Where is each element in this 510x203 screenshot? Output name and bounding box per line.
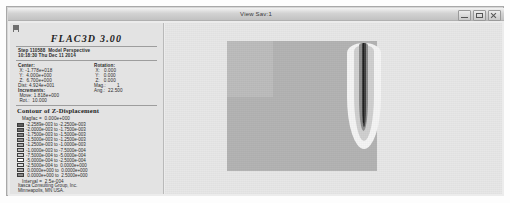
contour-color-swatch bbox=[17, 168, 24, 172]
contour-color-swatch bbox=[17, 143, 24, 147]
time-line: 10:18:30 Thu Dec 11 2014 bbox=[18, 53, 76, 58]
displacement-contour-plume bbox=[347, 43, 381, 149]
contour-axis-line bbox=[363, 43, 364, 123]
contour-color-swatch bbox=[17, 163, 24, 167]
application-root: View Sav:1 FLAC3D 3.00 Step 110588 Model… bbox=[0, 0, 510, 203]
vendor-line-2: Minneapolis, MN USA. bbox=[18, 188, 64, 193]
contour-legend-rows: -2.2589e-003 to -2.2500e-003-2.0000e-003… bbox=[17, 122, 88, 178]
window-title-bar[interactable]: View Sav:1 bbox=[8, 8, 504, 21]
contour-color-swatch bbox=[17, 138, 24, 142]
contour-legend-row: 0.0000e+000 to 2.5000e+000 bbox=[17, 173, 88, 178]
increments-rot: Rot.: 10.000 bbox=[18, 98, 47, 103]
maximize-button[interactable] bbox=[473, 10, 486, 21]
product-title: FLAC3D 3.00 bbox=[10, 33, 163, 44]
contour-range-label: 0.0000e+000 to 2.5000e+000 bbox=[26, 173, 88, 178]
model-viewport[interactable] bbox=[165, 23, 502, 194]
flac3d-window: View Sav:1 FLAC3D 3.00 Step 110588 Model… bbox=[6, 6, 504, 196]
contour-color-swatch bbox=[17, 128, 24, 132]
close-icon[interactable] bbox=[488, 10, 501, 21]
minimize-button[interactable] bbox=[458, 10, 471, 21]
contour-title: Contour of Z-Displacement bbox=[17, 107, 99, 114]
rotation-ang: Ang.: 22.500 bbox=[94, 88, 123, 93]
legend-panel: FLAC3D 3.00 Step 110588 Model Perspectiv… bbox=[10, 23, 164, 194]
contour-color-swatch bbox=[17, 173, 24, 177]
contour-color-swatch bbox=[17, 133, 24, 137]
window-controls bbox=[458, 10, 501, 21]
plot-area: FLAC3D 3.00 Step 110588 Model Perspectiv… bbox=[8, 21, 504, 196]
divider bbox=[16, 60, 157, 61]
contour-color-swatch bbox=[17, 123, 24, 127]
contour-color-swatch bbox=[17, 158, 24, 162]
contour-color-swatch bbox=[17, 153, 24, 157]
divider bbox=[16, 46, 157, 47]
divider bbox=[16, 105, 157, 106]
window-title: View Sav:1 bbox=[8, 10, 504, 19]
contour-magfac: Magfac = 0.000e+000 bbox=[22, 116, 70, 121]
model-block-upper-left bbox=[227, 41, 273, 97]
contour-color-swatch bbox=[17, 148, 24, 152]
plot-marker-icon bbox=[13, 25, 19, 32]
